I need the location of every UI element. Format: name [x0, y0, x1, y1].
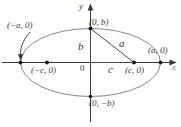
semi-minor-label: b	[78, 41, 84, 52]
vertex-right-point	[159, 61, 163, 65]
covertex-bottom-label: (0, −b)	[89, 99, 115, 108]
vertex-left-point	[19, 61, 23, 65]
x-axis	[2, 60, 177, 66]
ellipse-figure: y x 0 (−a, 0) (a, 0) (0, b) (0, −b) (−c,…	[0, 0, 181, 127]
semi-major-link-label: a	[119, 38, 125, 49]
origin-label: 0	[80, 64, 85, 73]
covertex-top-label: (0, b)	[89, 18, 109, 27]
vertex-right-label: (a, 0)	[148, 46, 168, 55]
focus-right-label: (c, 0)	[125, 66, 144, 75]
focus-left-label: (−c, 0)	[31, 66, 56, 75]
x-axis-label: x	[172, 63, 176, 72]
focus-left-point	[45, 61, 49, 65]
focus-right-point	[132, 61, 136, 65]
covertex-top-point	[89, 27, 93, 31]
y-axis-label: y	[79, 2, 83, 11]
vertex-left-label: (−a, 0)	[7, 21, 33, 30]
focal-distance-label: c	[108, 64, 113, 75]
